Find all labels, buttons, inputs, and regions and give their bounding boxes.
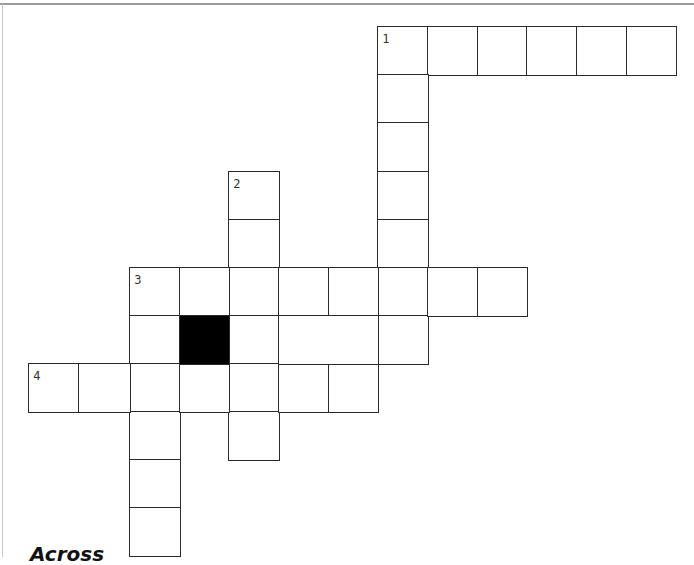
- across-heading: Across: [30, 544, 104, 564]
- crossword-cell[interactable]: [328, 267, 379, 317]
- crossword-cell[interactable]: [129, 411, 181, 461]
- crossword-cell[interactable]: [626, 26, 677, 76]
- clue-number: 4: [33, 370, 40, 382]
- crossword-cell[interactable]: 1: [377, 26, 429, 76]
- crossword-cell[interactable]: 4: [28, 363, 80, 413]
- clue-number: 2: [233, 178, 240, 190]
- crossword-cell[interactable]: [129, 363, 181, 413]
- crossword-cell[interactable]: [377, 122, 429, 173]
- crossword-cell[interactable]: [377, 315, 429, 365]
- crossword-cell[interactable]: [477, 26, 528, 76]
- crossword-cell[interactable]: [228, 363, 280, 413]
- crossword-cell[interactable]: [526, 26, 578, 76]
- crossword-cell[interactable]: [228, 267, 280, 317]
- crossword-cell[interactable]: [576, 26, 628, 76]
- crossword-cell[interactable]: [129, 459, 181, 509]
- crossword-cell[interactable]: [427, 267, 479, 317]
- crossword-block-cell: [179, 315, 230, 365]
- clue-number: 1: [382, 33, 389, 45]
- crossword-cell[interactable]: [278, 315, 379, 365]
- crossword-cell[interactable]: 2: [228, 171, 280, 221]
- crossword-cell[interactable]: [179, 267, 230, 317]
- crossword-cell[interactable]: [328, 363, 379, 413]
- crossword-cell[interactable]: [179, 363, 230, 413]
- crossword-cell[interactable]: [427, 26, 479, 76]
- crossword-cell[interactable]: [377, 171, 429, 221]
- crossword-cell[interactable]: [477, 267, 528, 317]
- crossword-cell[interactable]: [228, 219, 280, 269]
- crossword-cell[interactable]: [129, 507, 181, 557]
- crossword-cell[interactable]: 3: [129, 267, 181, 317]
- crossword-cell[interactable]: [377, 267, 429, 317]
- crossword-cell[interactable]: [78, 363, 131, 413]
- crossword-cell[interactable]: [377, 74, 429, 124]
- crossword-cell[interactable]: [228, 411, 280, 461]
- crossword-cell[interactable]: [278, 267, 330, 317]
- crossword-cell[interactable]: [377, 219, 429, 269]
- crossword-cell[interactable]: [228, 315, 280, 365]
- clue-number: 3: [134, 274, 141, 286]
- crossword-cell[interactable]: [278, 363, 330, 413]
- crossword-cell[interactable]: [129, 315, 181, 365]
